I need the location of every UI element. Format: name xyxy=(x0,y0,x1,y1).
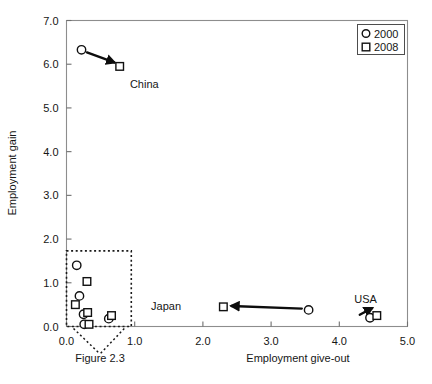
x-tick-label: 3.0 xyxy=(263,335,278,347)
legend-circle-icon xyxy=(362,30,370,38)
y-tick-label: 4.0 xyxy=(43,146,58,158)
callout-leader-right xyxy=(100,329,124,355)
marker-2000-point xyxy=(304,306,312,314)
marker-2008-point xyxy=(84,309,92,317)
marker-2008-point xyxy=(85,321,93,329)
annotation-arrow-japan xyxy=(232,306,302,309)
marker-2000-point xyxy=(77,46,85,54)
y-tick-label: 1.0 xyxy=(43,277,58,289)
y-tick-label: 0.0 xyxy=(43,321,58,333)
x-tick-label: 2.0 xyxy=(195,335,210,347)
series-2000-markers xyxy=(73,46,375,329)
x-tick-label: 1.0 xyxy=(127,335,142,347)
annotation-label-japan: Japan xyxy=(151,300,181,312)
x-axis-title: Employment give-out xyxy=(246,352,349,364)
marker-2008-point xyxy=(373,312,381,320)
x-axis-ticks xyxy=(67,322,408,327)
y-axis-ticks xyxy=(67,21,72,327)
y-axis-title: Employment gain xyxy=(6,131,18,216)
marker-2008-point xyxy=(220,303,228,311)
y-tick-label: 6.0 xyxy=(43,58,58,70)
annotation-arrow-china xyxy=(87,52,114,62)
series-2008-markers xyxy=(72,63,381,329)
marker-2008-point xyxy=(83,278,91,286)
legend[interactable]: 20002008 xyxy=(358,25,405,55)
marker-2000-point xyxy=(75,292,83,300)
legend-square-icon xyxy=(362,43,370,51)
y-tick-label: 5.0 xyxy=(43,102,58,114)
marker-2008-point xyxy=(116,63,124,71)
y-tick-label: 3.0 xyxy=(43,189,58,201)
callout-leader-left xyxy=(74,329,101,355)
annotation-labels: ChinaJapanUSA xyxy=(130,78,378,313)
marker-2008-point xyxy=(108,312,116,320)
figure-caption: Figure 2.3 xyxy=(75,352,125,364)
scatter-chart: 0.01.02.03.04.05.0 0.01.02.03.04.05.06.0… xyxy=(0,0,432,384)
y-tick-label: 2.0 xyxy=(43,233,58,245)
x-tick-label: 5.0 xyxy=(400,335,415,347)
figure-container: 0.01.02.03.04.05.0 0.01.02.03.04.05.06.0… xyxy=(0,0,432,384)
marker-2000-point xyxy=(73,261,81,269)
x-tick-label: 0.0 xyxy=(59,335,74,347)
legend-entry-label[interactable]: 2008 xyxy=(374,41,398,53)
y-axis-tick-labels: 0.01.02.03.04.05.06.07.0 xyxy=(43,15,58,333)
x-tick-label: 4.0 xyxy=(332,335,347,347)
annotation-arrows xyxy=(87,52,372,314)
annotation-label-china: China xyxy=(130,78,160,90)
x-axis-tick-labels: 0.01.02.03.04.05.0 xyxy=(59,335,415,347)
marker-2008-point xyxy=(72,301,80,309)
annotation-label-usa: USA xyxy=(354,293,377,305)
legend-entry-label[interactable]: 2000 xyxy=(374,28,398,40)
y-tick-label: 7.0 xyxy=(43,15,58,27)
